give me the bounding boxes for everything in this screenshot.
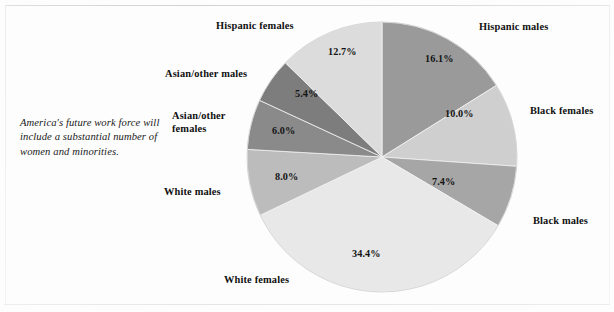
pie-value-label-white-males: 8.0%	[275, 171, 298, 182]
pie-value-label-asian-other-females: 6.0%	[272, 125, 295, 136]
pie-category-label-hispanic-females: Hispanic females	[216, 20, 294, 31]
pie-value-label-asian-other-males: 5.4%	[295, 88, 318, 99]
pie-category-label-black-females: Black females	[530, 105, 593, 116]
pie-category-label-white-females: White females	[224, 274, 289, 285]
pie-slice-group	[247, 22, 517, 292]
pie-value-label-hispanic-males: 16.1%	[425, 53, 454, 64]
figure-page: America's future work force will include…	[0, 0, 614, 312]
pie-category-label-asian-other-females: Asian/other females	[172, 109, 238, 135]
pie-category-label-white-males: White males	[164, 186, 221, 197]
pie-chart	[0, 0, 614, 312]
pie-category-label-hispanic-males: Hispanic males	[479, 21, 548, 32]
pie-value-label-white-females: 34.4%	[352, 248, 381, 259]
pie-value-label-hispanic-females: 12.7%	[328, 46, 357, 57]
pie-value-label-black-females: 10.0%	[445, 108, 474, 119]
pie-category-label-black-males: Black males	[533, 215, 588, 226]
pie-value-label-black-males: 7.4%	[432, 176, 455, 187]
pie-category-label-asian-other-males: Asian/other males	[165, 68, 247, 79]
pie-chart-svg	[0, 0, 614, 312]
